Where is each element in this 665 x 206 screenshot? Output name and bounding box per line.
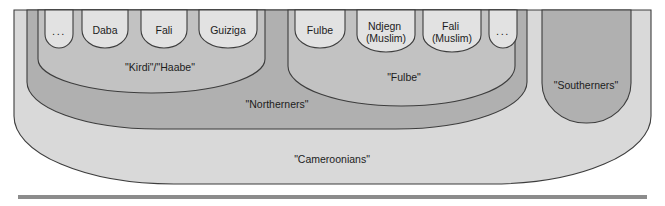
nested-identity-diagram: Nested ethnic identity categories (Camer… bbox=[0, 0, 665, 206]
leaf-label-ellipsis-fulbe: ... bbox=[496, 25, 510, 37]
leaf-label-ndjegn-line1: Ndjegn bbox=[368, 20, 401, 32]
leaf-label-fali-muslim-line1: Fali bbox=[442, 20, 459, 32]
leaf-label-ndjegn-muslim: Ndjegn (Muslim) bbox=[366, 20, 406, 44]
region-label-southerners: "Southerners" bbox=[554, 79, 619, 91]
region-label-northerners: "Northerners" bbox=[246, 98, 309, 110]
leaf-label-guiziga: Guiziga bbox=[210, 24, 246, 36]
region-label-cameroonians: "Cameroonians" bbox=[294, 153, 370, 165]
region-southerners bbox=[542, 10, 631, 123]
leaf-label-ndjegn-line2: (Muslim) bbox=[366, 32, 406, 44]
leaf-label-fali: Fali bbox=[156, 24, 173, 36]
leaf-label-daba: Daba bbox=[92, 24, 117, 36]
diagram-root: Nested ethnic identity categories (Camer… bbox=[0, 0, 665, 206]
leaf-label-ellipsis-kirdi: ... bbox=[52, 25, 66, 37]
leaf-label-fulbe: Fulbe bbox=[307, 24, 333, 36]
region-label-kirdi-haabe: "Kirdi"/"Haabe" bbox=[125, 61, 195, 73]
leaf-label-fali-muslim-line2: (Muslim) bbox=[432, 32, 472, 44]
region-label-fulbe-group: "Fulbe" bbox=[387, 71, 421, 83]
baseline-rule bbox=[18, 195, 647, 199]
